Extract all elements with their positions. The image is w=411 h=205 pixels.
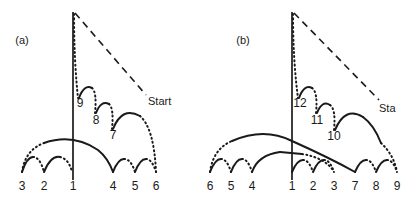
panel-b-upper-label-11: 11 (311, 113, 324, 127)
panel-b-arc-8-9-solid (376, 160, 387, 172)
panel-b-arc-1-2-solid (292, 160, 303, 172)
panel-b-point-label-6: 6 (207, 179, 214, 193)
panel-b-arc-12-dotted (312, 88, 317, 113)
panel-b-point-label-8: 8 (373, 179, 380, 193)
panel-b-arc-7-8-dotted (366, 160, 376, 172)
panel-b-arc-10-solid (335, 114, 363, 130)
panel-b-arc-4-3-solid-crest (280, 152, 302, 154)
panel-b-arc-10-solid-tail (363, 117, 381, 143)
panel-b-point-label-1: 1 (289, 179, 296, 193)
panel-b-arc-6-5-solid (210, 159, 221, 172)
figure-container: (a) Start 9 8 7 (0, 0, 411, 205)
panel-b-arc-8-9-dotted (387, 160, 397, 172)
panel-b-upper-label-12: 12 (293, 96, 307, 110)
panel-b-label: (b) (236, 34, 249, 46)
panel-b-upper-segment-apex-to-12 (293, 14, 298, 98)
panel-b-arc-1-2-dotted (303, 160, 313, 172)
panel-b-upper-label-10: 10 (327, 129, 341, 143)
panel-b-point-label-2: 2 (310, 179, 317, 193)
panel-b-arc-11-dotted (330, 105, 335, 130)
panel-b-arc-7-8-solid (355, 160, 366, 172)
panel-b-point-label-4: 4 (249, 179, 256, 193)
panel-b-point-label-3: 3 (331, 179, 338, 193)
panel-b-point-label-7: 7 (352, 179, 359, 193)
panel-b-arc-6-5-dotted (221, 159, 231, 172)
panel-b-arc-5-4-solid (231, 159, 242, 172)
panel-b-graphics: (b) Sta 12 11 10 (0, 0, 411, 205)
panel-b-arc-10-to-9-dotted (381, 143, 397, 172)
panel-b-arc-11-solid (317, 104, 330, 113)
panel-b-arc-4-3-solid (252, 152, 280, 172)
panel-b-start-label: Sta (379, 102, 396, 114)
panel-b-arc-5-4-dotted (242, 159, 252, 172)
panel-b-point-label-5: 5 (228, 179, 235, 193)
panel-b-point-label-9: 9 (394, 179, 401, 193)
